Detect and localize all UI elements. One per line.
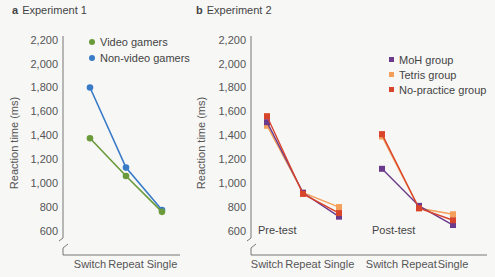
x-tick-label: Switch: [366, 258, 398, 270]
y-tick-label: 800: [40, 201, 58, 213]
panel-a: aExperiment 12,2002,0001,8001,6001,4001,…: [8, 4, 190, 270]
axis-break-mark: [63, 244, 68, 255]
data-point: [87, 84, 94, 91]
legend-label: MoH group: [399, 54, 453, 66]
data-point: [450, 217, 456, 223]
y-tick-label: 1,000: [218, 177, 246, 189]
x-tick-label: Switch: [74, 258, 106, 270]
legend-label: Non-video gamers: [100, 52, 190, 64]
y-tick-label: 1,400: [30, 129, 58, 141]
axis-break-mark: [59, 238, 63, 241]
legend-marker-icon: [89, 39, 95, 45]
x-tick-label: Repeat: [108, 258, 143, 270]
y-tick-label: 800: [228, 201, 246, 213]
post-test-label: Post-test: [372, 224, 415, 236]
data-point: [416, 205, 422, 211]
legend-marker-icon: [89, 55, 95, 61]
y-axis-title: Reaction time (ms): [8, 97, 20, 189]
y-tick-label: 1,800: [30, 81, 58, 93]
figure: aExperiment 12,2002,0001,8001,6001,4001,…: [0, 0, 495, 277]
y-tick-label: 1,200: [30, 153, 58, 165]
y-tick-label: 1,600: [218, 105, 246, 117]
legend-label: Video gamers: [100, 36, 168, 48]
data-point: [379, 166, 385, 172]
legend-label: No-practice group: [399, 84, 486, 96]
data-point: [87, 135, 94, 142]
y-tick-label: 2,200: [30, 34, 58, 46]
x-tick-label: Repeat: [401, 258, 436, 270]
data-point: [450, 211, 456, 217]
data-point: [379, 131, 385, 137]
y-tick-label: 1,200: [218, 153, 246, 165]
x-tick-label: Repeat: [285, 258, 320, 270]
y-tick-label: 600: [40, 225, 58, 237]
axis-break-mark: [251, 244, 256, 255]
series-line: [382, 137, 453, 215]
y-tick-label: 1,400: [218, 129, 246, 141]
x-tick-label: Single: [147, 258, 178, 270]
legend-label: Tetris group: [399, 69, 456, 81]
series-line: [267, 116, 339, 213]
data-point: [336, 210, 342, 216]
y-tick-label: 1,800: [218, 81, 246, 93]
y-tick-label: 1,600: [30, 105, 58, 117]
x-tick-label: Switch: [251, 258, 283, 270]
legend-marker-icon: [389, 72, 394, 77]
data-point: [300, 191, 306, 197]
panel-b: bExperiment 22,2002,0001,8001,6001,4001,…: [195, 4, 487, 270]
data-point: [159, 209, 166, 216]
data-point: [336, 204, 342, 210]
y-tick-label: 1,000: [30, 177, 58, 189]
y-tick-label: 2,200: [218, 34, 246, 46]
x-tick-label: Single: [324, 258, 355, 270]
panel-b-title: bExperiment 2: [196, 4, 272, 16]
data-point: [123, 173, 130, 180]
legend-marker-icon: [389, 87, 394, 92]
panel-a-title: aExperiment 1: [12, 4, 87, 16]
axis-break-mark: [247, 238, 251, 241]
y-axis-title: Reaction time (ms): [195, 97, 207, 189]
legend-marker-icon: [389, 57, 394, 62]
data-point: [264, 113, 270, 119]
pre-test-label: Pre-test: [258, 224, 297, 236]
y-tick-label: 600: [228, 225, 246, 237]
y-tick-label: 2,000: [30, 58, 58, 70]
x-tick-label: Single: [438, 258, 469, 270]
data-point: [123, 164, 130, 171]
y-tick-label: 2,000: [218, 58, 246, 70]
